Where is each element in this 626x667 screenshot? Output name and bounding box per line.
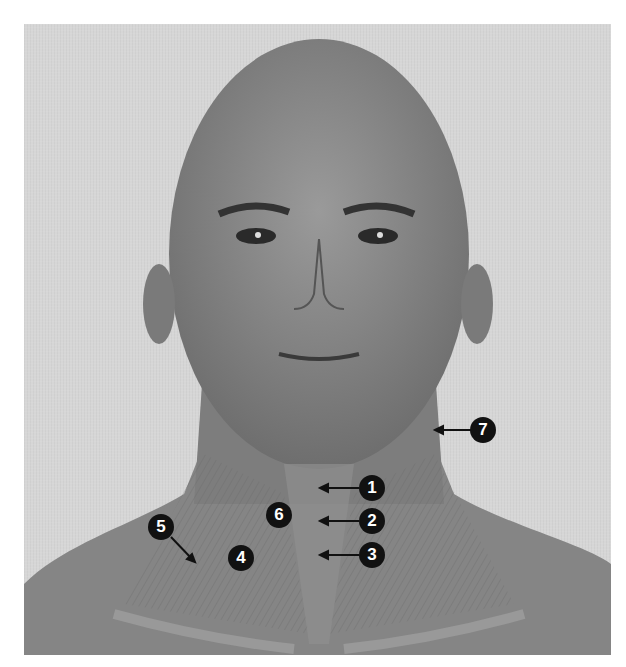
callout-6: 6	[266, 502, 292, 528]
callout-3: 3	[359, 542, 385, 568]
callout-2: 2	[359, 508, 385, 534]
head-shape	[169, 39, 469, 469]
left-ear	[143, 264, 175, 344]
callout-5: 5	[148, 514, 174, 540]
photo-frame	[24, 24, 611, 655]
right-ear	[461, 264, 493, 344]
callout-7: 7	[470, 417, 496, 443]
callout-4: 4	[228, 545, 254, 571]
callout-1: 1	[359, 475, 385, 501]
figure-illustration	[24, 24, 611, 655]
